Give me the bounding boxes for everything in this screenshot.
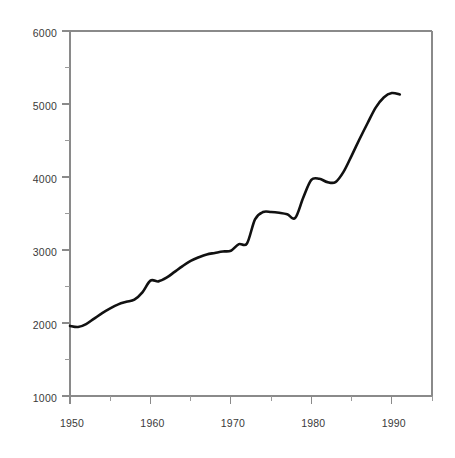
y-tick-label: 6000 [33, 27, 57, 39]
axis-group [70, 31, 432, 396]
chart-canvas: 100020003000400050006000 195019601970198… [0, 0, 455, 458]
data-series-group [70, 93, 400, 327]
y-tick-label: 2000 [33, 319, 57, 331]
y-tick-label: 1000 [33, 392, 57, 404]
x-tick-label: 1970 [221, 417, 245, 429]
x-tick-label: 1960 [140, 417, 164, 429]
x-axis-tick-labels: 19501960197019801990 [60, 417, 406, 429]
x-axis-ticks [70, 396, 432, 404]
x-tick-label: 1990 [382, 417, 406, 429]
y-tick-label: 4000 [33, 173, 57, 185]
y-axis-tick-labels: 100020003000400050006000 [33, 27, 57, 404]
x-tick-label: 1980 [301, 417, 325, 429]
y-axis-ticks [62, 31, 70, 396]
y-tick-label: 3000 [33, 246, 57, 258]
x-tick-label: 1950 [60, 417, 84, 429]
line-chart-figure: 100020003000400050006000 195019601970198… [0, 0, 455, 458]
y-tick-label: 5000 [33, 100, 57, 112]
data-line-series-1 [70, 93, 400, 327]
